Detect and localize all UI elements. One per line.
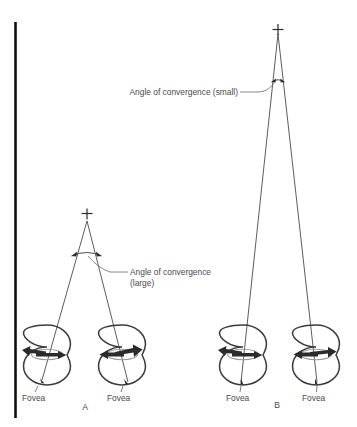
angle-arc-b-arrowhead-left xyxy=(272,79,277,83)
fovea-label-b-left: Fovea xyxy=(226,393,250,403)
leader-line-a xyxy=(88,256,128,272)
group-letter-b: B xyxy=(274,400,280,410)
angle-arc-b-arrowhead-right xyxy=(280,79,284,83)
group-letter-a: A xyxy=(82,402,88,412)
fixation-marker-b xyxy=(273,24,284,35)
angle-arc-a-arrowhead-left xyxy=(72,252,78,257)
fovea-tick-b-right xyxy=(317,386,318,392)
eye-a-left xyxy=(22,325,71,385)
leader-line-b xyxy=(240,83,274,92)
eye-a-right xyxy=(99,325,146,385)
group-a xyxy=(22,209,146,393)
left-margin-rule xyxy=(14,22,17,418)
group-b xyxy=(218,24,340,392)
large-angle-label-line1: Angle of convergence xyxy=(130,267,211,277)
large-angle-label-line2: (large) xyxy=(130,278,154,288)
fovea-tick-b-left xyxy=(240,386,241,392)
fovea-label-a-right: Fovea xyxy=(107,393,131,403)
angle-arc-a-arrowhead-right xyxy=(96,252,102,257)
small-angle-label: Angle of convergence (small) xyxy=(130,87,239,97)
eye-b-left-fovea-arrowhead xyxy=(241,379,244,386)
fovea-label-b-right: Fovea xyxy=(302,393,326,403)
sight-line-b-right xyxy=(278,34,317,382)
fovea-tick-a-left xyxy=(35,386,38,392)
diagram-canvas: Angle of convergence (large) Angle of co… xyxy=(0,0,357,427)
convergence-diagram: Angle of convergence (large) Angle of co… xyxy=(0,0,357,427)
fovea-tick-a-right xyxy=(121,386,123,392)
eye-b-left xyxy=(218,325,267,385)
fovea-label-a-left: Fovea xyxy=(22,393,46,403)
fixation-marker-a xyxy=(82,209,93,220)
eye-a-right-fovea-arrowhead xyxy=(124,379,129,385)
